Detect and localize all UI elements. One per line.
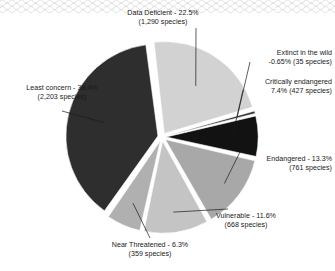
- slice-label-line2: (761 species): [213, 164, 332, 173]
- slice-label-line1: Critically endangered: [265, 78, 332, 86]
- slice-label-line2: 7.4% (427 species): [213, 87, 332, 96]
- slice-label-line1: Vulnerable - 11.6%: [216, 212, 276, 220]
- slice-label-endangered: Endangered - 13.3% (761 species): [213, 155, 332, 173]
- slice-label-line2: (1,290 species): [103, 18, 223, 27]
- slice-label-line1: Extinct in the wild: [277, 49, 332, 57]
- slice-label-line1: Least concern - 38.4%: [26, 84, 97, 92]
- slice-label-least-concern: Least concern - 38.4% (2,203 species): [3, 84, 121, 102]
- pie-chart-figure: Data Deficient - 22.5% (1,290 species) E…: [0, 0, 335, 271]
- slice-label-line2: (668 species): [189, 221, 303, 230]
- slice-label-line1: Near Threatened - 6.3%: [112, 241, 188, 249]
- slice-label-extinct-in-the-wild: Extinct in the wild -0.65% (35 species): [215, 49, 332, 67]
- slice-label-line2: -0.65% (35 species): [215, 58, 332, 67]
- slice-label-data-deficient: Data Deficient - 22.5% (1,290 species): [103, 9, 223, 27]
- slice-label-line1: Endangered - 13.3%: [267, 155, 332, 163]
- slice-label-line2: (2,203 species): [3, 93, 121, 102]
- slice-label-near-threatened: Near Threatened - 6.3% (359 species): [88, 241, 212, 259]
- pie-slice-group: [66, 41, 258, 233]
- slice-label-line1: Data Deficient - 22.5%: [127, 9, 198, 17]
- slice-label-critically-endangered: Critically endangered 7.4% (427 species): [213, 78, 332, 96]
- slice-label-vulnerable: Vulnerable - 11.6% (668 species): [189, 212, 303, 230]
- slice-label-line2: (359 species): [88, 250, 212, 259]
